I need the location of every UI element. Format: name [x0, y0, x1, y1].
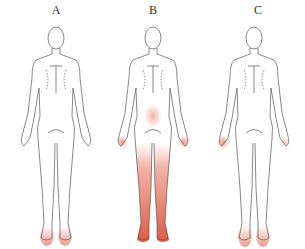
hand-shading — [116, 136, 128, 148]
figure-b — [103, 18, 203, 248]
figure-label-a: A — [46, 3, 66, 18]
figure-a — [6, 18, 106, 248]
abdomen-shading — [144, 104, 162, 128]
figure-label-c: C — [248, 3, 268, 18]
leg-shading — [135, 143, 152, 242]
hand-shading — [178, 136, 190, 148]
figure-label-b: B — [143, 3, 163, 18]
leg-shading — [154, 143, 171, 242]
figure-c — [204, 18, 304, 248]
hand-shading — [217, 135, 229, 149]
